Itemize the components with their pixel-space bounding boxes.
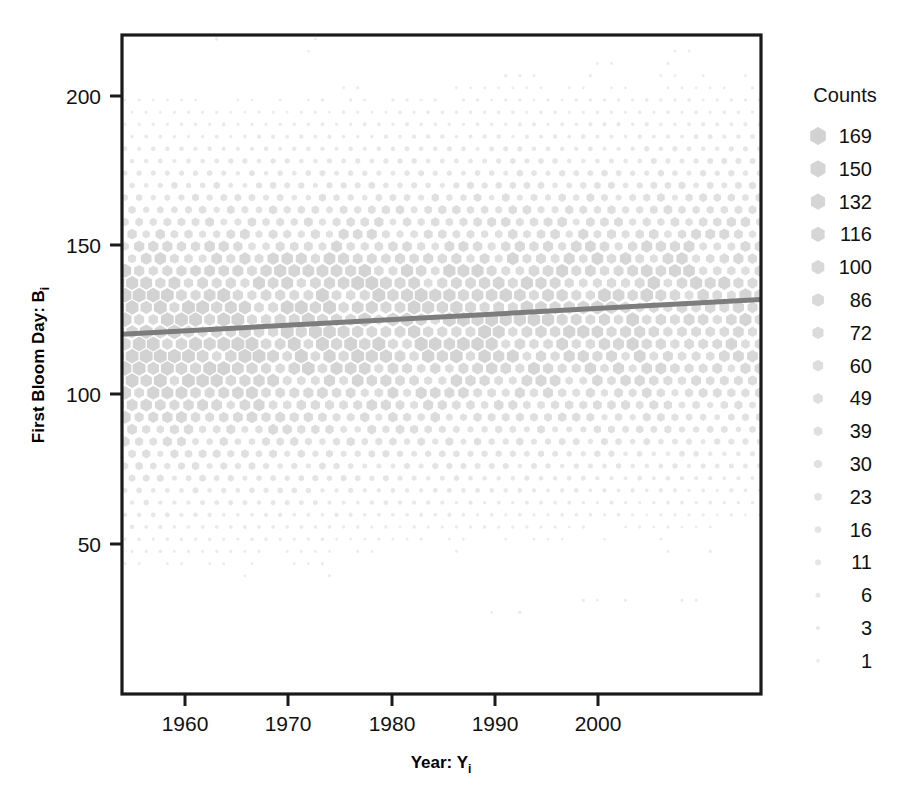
y-axis-title-subscript: i <box>38 287 52 290</box>
y-tick-label-2: 150 <box>66 234 101 257</box>
x-tick-label-2: 1980 <box>369 712 416 735</box>
legend-value-label: 30 <box>850 453 872 475</box>
x-tick-label-0: 1960 <box>162 712 209 735</box>
legend-value-label: 150 <box>839 158 872 180</box>
legend-value-label: 3 <box>861 617 872 639</box>
x-tick-label-3: 1990 <box>472 712 519 735</box>
legend-item: 169 <box>810 125 872 147</box>
legend-value-label: 23 <box>850 486 872 508</box>
legend-value-label: 6 <box>861 584 872 606</box>
legend-value-label: 11 <box>851 551 872 573</box>
x-axis-title-text: Year: Y <box>411 753 469 772</box>
legend-value-label: 1 <box>861 650 872 672</box>
x-tick-label-4: 2000 <box>575 712 622 735</box>
y-tick-label-1: 100 <box>66 383 101 406</box>
legend-title: Counts <box>813 84 876 106</box>
x-axis-title-subscript: i <box>468 762 471 776</box>
legend-value-label: 132 <box>839 191 872 213</box>
y-tick-label-3: 200 <box>66 85 101 108</box>
hexbin-scatter-chart: 1960 1970 1980 1990 2000 200 150 100 50 … <box>0 0 915 793</box>
legend-value-label: 169 <box>839 125 872 147</box>
legend-value-label: 60 <box>850 355 872 377</box>
legend-value-label: 39 <box>850 420 872 442</box>
legend-value-label: 86 <box>850 289 872 311</box>
x-tick-label-1: 1970 <box>265 712 312 735</box>
y-tick-label-0: 50 <box>78 533 101 556</box>
legend-value-label: 72 <box>850 322 872 344</box>
legend-value-label: 16 <box>850 519 872 541</box>
legend-value-label: 100 <box>839 256 872 278</box>
y-axis-title-text: First Bloom Day: B <box>29 290 48 443</box>
legend-value-label: 116 <box>840 223 872 245</box>
legend-value-label: 49 <box>850 387 872 409</box>
